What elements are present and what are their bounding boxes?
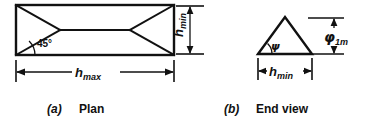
- end-view-caption-tag: (b): [224, 102, 239, 116]
- end-view-angle-label: ψ: [271, 40, 280, 53]
- hmax-subscript: max: [83, 72, 102, 82]
- plan-caption-tag: (a): [47, 102, 62, 116]
- hmin-plan-symbol: h: [171, 29, 186, 37]
- hmin-end-subscript: min: [277, 71, 294, 81]
- plan-angle-label: 45°: [37, 38, 52, 49]
- phi-arrow-up: [331, 18, 338, 26]
- figure-container: 45° hmin hmax (a) Plan: [0, 0, 374, 131]
- hmin-plan-arrow-up: [187, 6, 194, 14]
- end-view-triangle: [258, 17, 312, 54]
- hmin-plan-subscript: min: [178, 13, 188, 30]
- hmax-symbol: h: [75, 65, 83, 80]
- hmin-end-arrow-right: [304, 68, 312, 74]
- plan-left-upper-diagonal: [16, 5, 60, 30]
- plan-caption-label: Plan: [79, 102, 104, 116]
- technical-diagram: 45° hmin hmax (a) Plan: [0, 0, 374, 131]
- plan-right-lower-diagonal: [130, 30, 174, 55]
- hmin-end-arrow-left: [258, 68, 266, 74]
- phi-subscript: 1m: [335, 37, 348, 47]
- end-view-group: ψ φ1m hmin (b) End view: [224, 17, 352, 116]
- plan-view-group: 45° hmin hmax (a) Plan: [16, 5, 204, 116]
- end-view-caption-label: End view: [256, 102, 309, 116]
- hmin-plan-arrow-down: [187, 46, 194, 54]
- plan-right-upper-diagonal: [130, 5, 174, 30]
- hmin-end-symbol: h: [269, 64, 277, 79]
- hmax-arrow-left: [16, 69, 25, 76]
- phi-symbol: φ: [324, 29, 335, 45]
- phi-arrow-down: [331, 46, 338, 54]
- hmax-arrow-right: [165, 69, 174, 76]
